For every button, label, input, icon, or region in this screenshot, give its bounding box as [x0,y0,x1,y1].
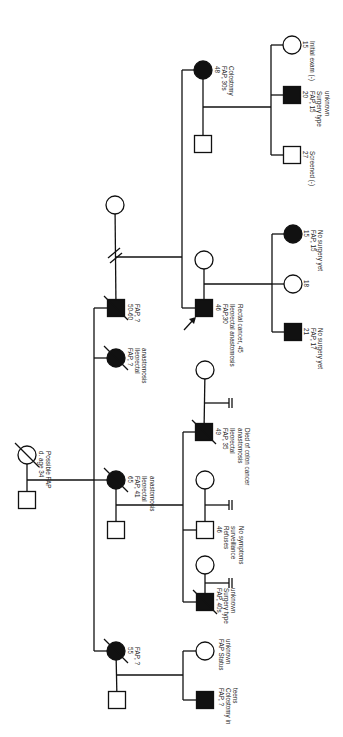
label-line: unknown [324,91,331,117]
male-symbol [109,692,126,709]
pedigree-symbols [15,36,302,709]
label-line: Rectal cancer, 45 [237,304,244,353]
male-symbol-affected [196,300,213,317]
female-symbol [196,642,214,660]
female-symbol [196,361,214,379]
individual-label: 65FAP, 41Ileorectalanastomosis [127,476,156,511]
individual-label: 49FAP, 35IleorectalanastomosisDied of co… [215,428,251,485]
pedigree-diagram: d. age 34Possible FAP50-60FAP, ?FAP, ?Il… [0,0,343,737]
female-symbol-affected [284,225,302,243]
individual-label: FAP, 40sSurgery typeunknown [216,588,237,624]
male-symbol [197,522,214,539]
label-line: 48 [214,66,221,74]
male-symbol-affected [197,692,214,709]
label-line: No symptoms [237,526,245,565]
label-line: 46 [216,526,223,534]
label-line: Ileorectal [229,428,236,454]
pedigree-labels: d. age 34Possible FAP50-60FAP, ?FAP, ?Il… [37,41,331,725]
label-line: unknown [225,639,232,665]
label-line: 21 [303,328,310,336]
label-line: Screened (-) [308,151,316,186]
male-symbol [108,522,125,539]
label-line: 18 [303,280,310,288]
label-line: Refuses [223,526,230,549]
male-symbol [284,147,301,164]
individual-label: 46FAP,30Ileorectal anastomosisRectal can… [215,304,244,367]
label-line: Possible FAP [45,451,52,488]
label-line: FAP, ? [134,304,141,323]
label-line: FAP,30 [222,304,229,324]
individual-label: 21FAP, 17No surgery yet [303,328,324,369]
individual-label: d. age 34Possible FAP [37,451,52,488]
label-line: 15 [302,41,309,49]
label-line: Colostomy in [224,688,232,725]
label-line: 49 [215,428,222,436]
female-symbol [106,196,124,214]
male-symbol-affected [284,87,301,104]
individual-label: 15FAP, 15No surgery yet [303,230,324,271]
label-line: anastomosis [149,476,156,511]
label-line: FAP, 30s [221,66,228,91]
label-line: 55 [127,647,134,655]
individual-label: FAP, ?Colostomy inteens [218,688,239,725]
label-line: unknown [230,588,237,614]
female-symbol [196,556,214,574]
label-line: FAP, ? [218,688,225,707]
label-line: anastomosis [141,348,148,383]
label-line: Ileorectal [141,476,148,502]
label-line: Surgery type [222,588,230,624]
male-symbol-affected [285,324,302,341]
male-symbol [195,136,212,153]
label-line: FAP, 41 [134,476,141,498]
female-symbol [284,275,302,293]
label-line: 20 [302,91,309,99]
individual-label: 15Initial exam (-) [302,41,316,81]
label-line: FAP, 15 [309,91,316,113]
label-line: 50-60 [127,304,134,321]
label-line: surveillance [230,526,237,560]
label-line: FAP, 40s [216,588,223,613]
male-symbol [19,492,36,509]
individual-label: 18 [303,280,310,288]
label-line: No surgery yet [316,230,324,271]
individual-label: 27Screened (-) [302,151,316,186]
label-line: 65 [127,476,134,484]
label-line: Surgery type [315,91,323,127]
label-line: No surgery yet [316,328,324,369]
female-symbol [283,36,301,54]
individual-label: FAP Statusunknown [218,639,232,670]
female-symbol [195,251,213,269]
label-line: d. age 34 [37,451,45,478]
label-line: FAP, 17 [310,328,317,350]
individual-label: 20FAP, 15Surgery typeunknown [302,91,331,127]
female-symbol [196,471,214,489]
label-line: FAP Status [218,639,225,670]
pedigree-lines [27,45,293,700]
individual-label: 50-60FAP, ? [127,304,141,323]
label-line: FAP, 35 [222,428,229,450]
label-line: Died of colon cancer [244,428,251,485]
label-line: teens [232,688,239,703]
label-line: 15 [303,230,310,238]
individual-label: 55FAP, ? [127,647,141,666]
marriage-line [115,205,116,308]
label-line: Ileorectal anastomosis [229,304,236,367]
label-line: FAP, ? [127,348,134,367]
individual-label: FAP, ?Ileorectalanastomosis [127,348,148,383]
label-line: Initial exam (-) [308,41,316,81]
individual-label: 46RefusessurveillanceNo symptoms [216,526,245,565]
label-line: FAP, ? [134,647,141,666]
label-line: Colostomy [227,66,235,97]
label-line: anastomosis [237,428,244,463]
label-line: FAP, 15 [310,230,317,252]
individual-label: 48FAP, 30sColostomy [214,66,235,97]
label-line: Ileorectal [134,348,141,374]
label-line: 27 [302,151,309,159]
label-line: 46 [215,304,222,312]
female-symbol-affected [194,61,212,79]
